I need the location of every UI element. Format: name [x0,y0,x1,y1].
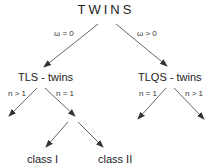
edge-class2 [78,122,103,147]
edge-label-tlqs-n-eq-1: n = 1 [139,89,158,98]
twins-classification-diagram: TWINS ω = 0 ω > 0 TLS - twins TLQS - twi… [0,0,207,168]
node-tls-twins: TLS - twins [18,71,74,83]
edge-label-omega-positive: ω > 0 [137,29,157,38]
edge-label-omega-zero: ω = 0 [54,29,74,38]
edge-label-tls-n-eq-1: n = 1 [56,89,75,98]
edge-label-tls-n-gt-1: n > 1 [8,89,27,98]
node-tlqs-twins: TLQS - twins [138,71,202,83]
node-class-1: class I [27,153,58,165]
edge-class1 [46,122,68,147]
root-node: TWINS [78,2,135,17]
edge-label-tlqs-n-gt-1: n > 1 [185,89,204,98]
node-class-2: class II [98,153,132,165]
